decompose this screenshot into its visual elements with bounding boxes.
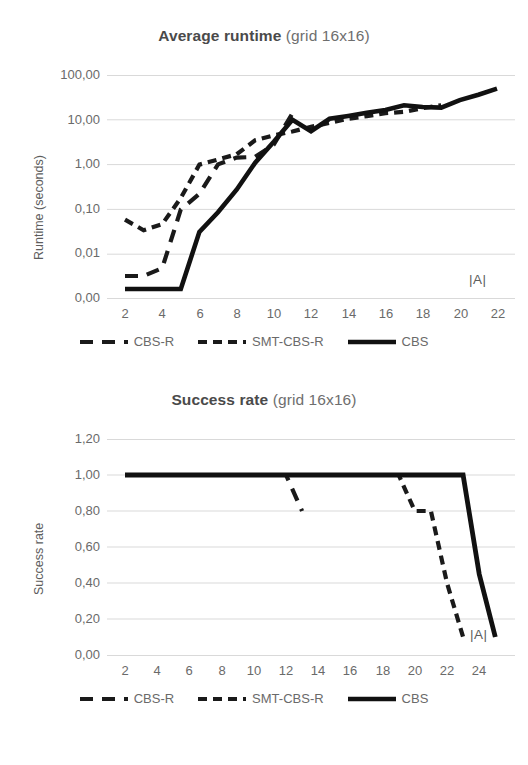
legend-item-cbs-r[interactable]: CBS-R <box>78 691 196 706</box>
plot-area-success <box>107 439 515 656</box>
y-tick-label: 0,00 <box>28 290 100 305</box>
chart-title-runtime-main: Average runtime <box>158 27 281 44</box>
legend-label-cbs-r: CBS-R <box>134 334 174 349</box>
chart-title-success-sub: (grid 16x16) <box>268 391 356 408</box>
x-tick-label: 6 <box>180 306 220 321</box>
plot-area-runtime <box>107 75 515 299</box>
legend-item-cbs-r[interactable]: CBS-R <box>78 334 196 349</box>
legend-label-smt-cbs-r: SMT-CBS-R <box>252 691 324 706</box>
legend-swatch-long-dash <box>78 694 130 704</box>
legend-item-smt-cbs-r[interactable]: SMT-CBS-R <box>196 334 346 349</box>
x-tick-label: 4 <box>142 306 182 321</box>
success-plot-svg <box>107 439 515 656</box>
legend-label-cbs-r: CBS-R <box>134 691 174 706</box>
chart-title-runtime-sub: (grid 16x16) <box>281 27 369 44</box>
legend-item-cbs[interactable]: CBS <box>346 691 451 706</box>
gridlines <box>107 440 515 656</box>
success-rate-chart: Success rate (grid 16x16) Success rate 1… <box>0 390 528 765</box>
series-line-cbs-r <box>125 475 302 511</box>
series-line-smt-cbs-r <box>125 475 463 637</box>
y-tick-label: 0,20 <box>28 611 100 626</box>
y-tick-label: 0,00 <box>28 647 100 662</box>
x-tick-label: 10 <box>254 306 294 321</box>
y-tick-label: 0,01 <box>28 245 100 260</box>
chart-title-success-main: Success rate <box>171 391 268 408</box>
series-line-smt-cbs-r <box>125 105 441 230</box>
y-tick-label: 1,00 <box>28 156 100 171</box>
y-tick-label: 0,80 <box>28 503 100 518</box>
legend-swatch-long-dash <box>78 337 130 347</box>
legend-label-cbs: CBS <box>402 691 429 706</box>
legend-swatch-solid <box>346 694 398 704</box>
legend-item-cbs[interactable]: CBS <box>346 334 451 349</box>
x-tick-label: 22 <box>478 306 518 321</box>
average-runtime-chart: Average runtime (grid 16x16) Runtime (se… <box>0 0 528 390</box>
legend-runtime: CBS-R SMT-CBS-R CBS <box>0 334 528 349</box>
x-tick-label: 12 <box>291 306 331 321</box>
legend-swatch-solid <box>346 337 398 347</box>
series-line-cbs <box>125 89 497 289</box>
runtime-plot-svg <box>107 75 515 299</box>
y-tick-label: 0,10 <box>28 201 100 216</box>
legend-label-cbs: CBS <box>402 334 429 349</box>
y-tick-label: 0,60 <box>28 539 100 554</box>
legend-success: CBS-R SMT-CBS-R CBS <box>0 691 528 706</box>
x-tick-label: 14 <box>329 306 369 321</box>
gridlines <box>107 76 515 299</box>
legend-swatch-short-dash <box>196 694 248 704</box>
legend-label-smt-cbs-r: SMT-CBS-R <box>252 334 324 349</box>
chart-title-runtime: Average runtime (grid 16x16) <box>0 27 528 45</box>
x-axis-annotation-runtime: |A| <box>469 272 487 287</box>
y-tick-label: 0,40 <box>28 575 100 590</box>
x-tick-label: 18 <box>403 306 443 321</box>
x-tick-label: 16 <box>366 306 406 321</box>
x-axis-annotation-success: |A| <box>470 627 488 642</box>
x-tick-label: 2 <box>105 306 145 321</box>
chart-title-success: Success rate (grid 16x16) <box>0 391 528 409</box>
y-tick-label: 100,00 <box>28 67 100 82</box>
legend-item-smt-cbs-r[interactable]: SMT-CBS-R <box>196 691 346 706</box>
x-tick-label: 20 <box>441 306 481 321</box>
x-tick-label: 8 <box>217 306 257 321</box>
y-tick-label: 1,00 <box>28 467 100 482</box>
x-tick-label: 24 <box>459 663 499 678</box>
y-tick-label: 1,20 <box>28 431 100 446</box>
legend-swatch-short-dash <box>196 337 248 347</box>
y-tick-label: 10,00 <box>28 112 100 127</box>
